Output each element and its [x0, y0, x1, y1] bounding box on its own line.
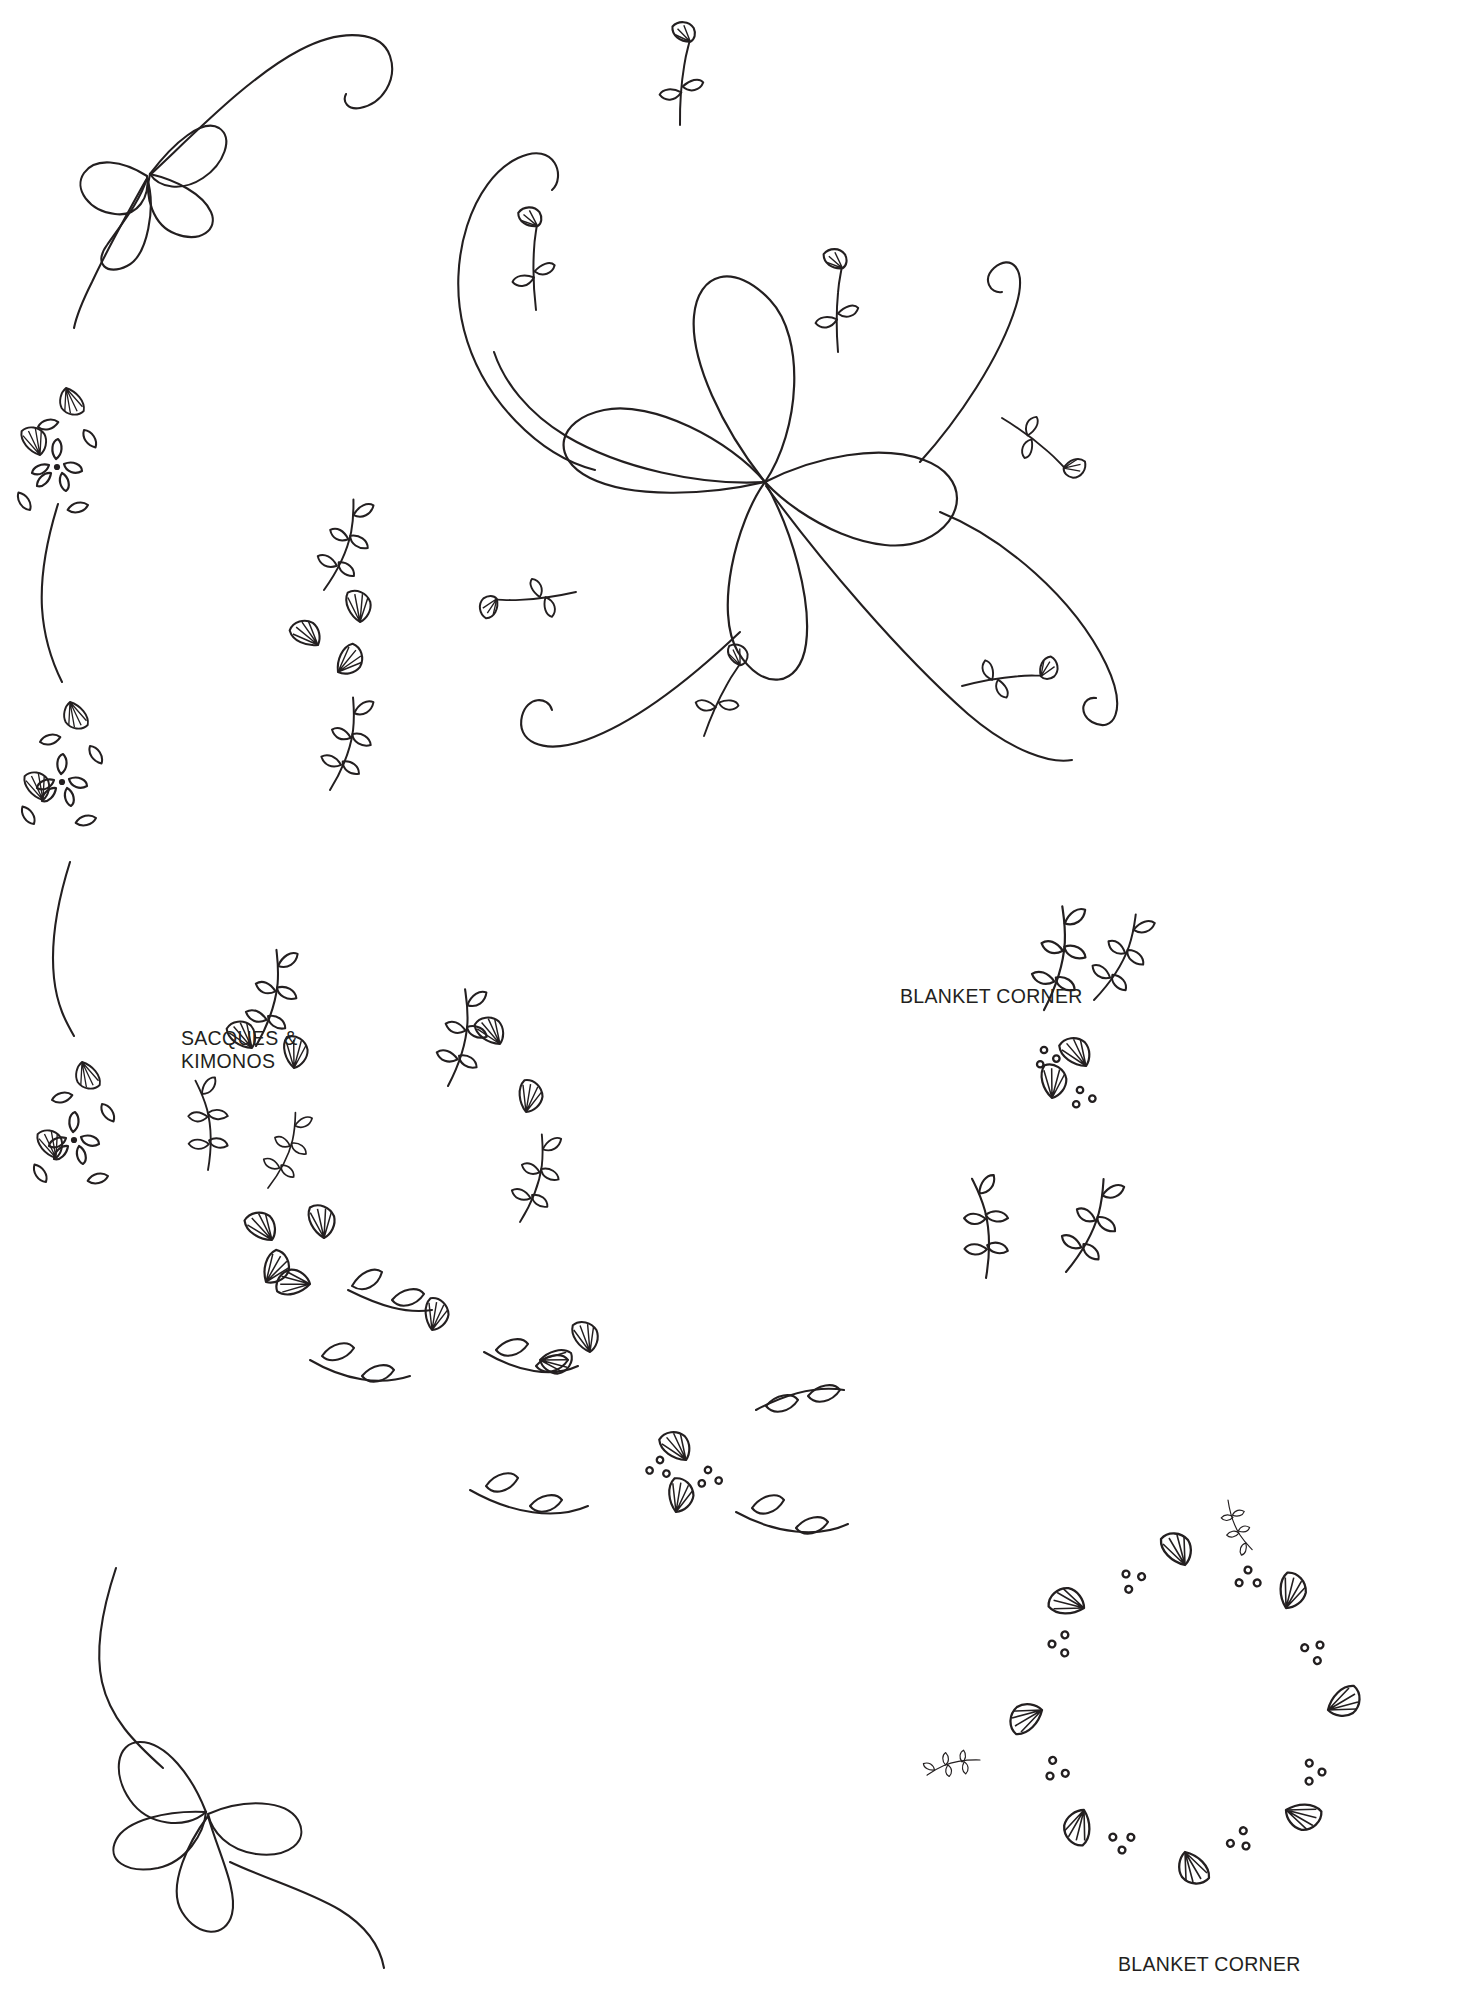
- pattern-sheet: SACQUES &KIMONOS BLANKET CORNER BLANKET …: [0, 0, 1462, 2004]
- label-sacques-kimonos-line2: KIMONOS: [181, 1050, 275, 1072]
- label-sacques-kimonos: SACQUES &KIMONOS: [181, 1027, 297, 1073]
- label-blanket-corner-bottom: BLANKET CORNER: [1118, 1953, 1301, 1976]
- label-sacques-kimonos-line1: SACQUES &: [181, 1027, 297, 1049]
- label-blanket-corner-top: BLANKET CORNER: [900, 985, 1083, 1008]
- pattern-artwork: [0, 0, 1462, 2004]
